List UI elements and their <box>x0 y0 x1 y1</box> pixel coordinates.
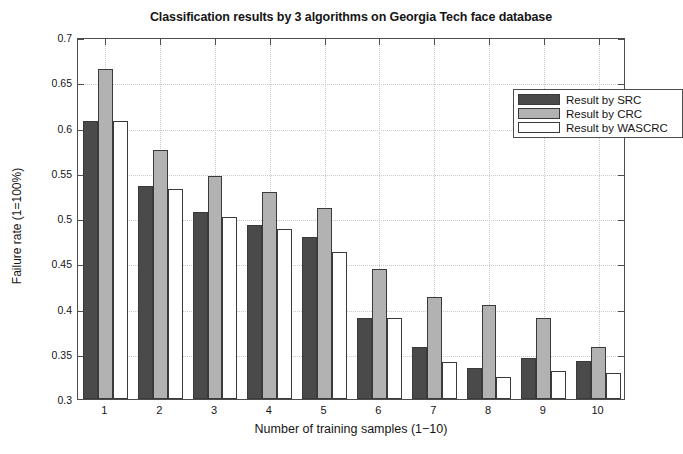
legend-swatch <box>518 122 560 133</box>
bar <box>606 373 621 399</box>
bar <box>496 377 511 399</box>
x-axis-tick <box>489 39 490 45</box>
y-axis-tick <box>78 39 84 40</box>
bar <box>277 229 292 399</box>
x-axis-tick-label: 7 <box>430 404 436 416</box>
x-axis-tick-label: 9 <box>540 404 546 416</box>
y-axis-tick <box>618 265 624 266</box>
y-axis-tick <box>618 84 624 85</box>
bar <box>521 358 536 399</box>
bar <box>536 318 551 399</box>
x-axis-tick <box>105 39 106 45</box>
x-axis-tick-label: 10 <box>591 404 603 416</box>
bar <box>372 269 387 399</box>
y-axis-tick-label: 0.55 <box>52 168 72 180</box>
bar <box>482 305 497 399</box>
y-axis-tick <box>618 39 624 40</box>
bar <box>332 252 347 400</box>
y-axis-tick-label: 0.5 <box>57 213 72 225</box>
legend-swatch <box>518 94 560 105</box>
y-axis-tick-label: 0.35 <box>52 349 72 361</box>
x-axis-tick <box>544 39 545 45</box>
bar <box>262 192 277 399</box>
x-axis-tick-labels: 12345678910 <box>77 404 625 420</box>
bar <box>387 318 402 399</box>
bar <box>113 121 128 399</box>
y-axis-tick-label: 0.7 <box>57 32 72 44</box>
x-axis-tick <box>379 39 380 45</box>
bar <box>83 121 98 399</box>
bar <box>467 368 482 399</box>
y-axis-tick-label: 0.45 <box>52 258 72 270</box>
x-axis-tick-label: 8 <box>485 404 491 416</box>
bar <box>168 189 183 399</box>
bar <box>302 237 317 399</box>
x-axis-tick-label: 1 <box>101 404 107 416</box>
x-axis-label: Number of training samples (1−10) <box>77 422 625 436</box>
x-axis-tick-label: 3 <box>211 404 217 416</box>
legend-label: Result by WASCRC <box>566 122 668 134</box>
bar <box>317 208 332 399</box>
plot-area: Result by SRCResult by CRCResult by WASC… <box>77 38 625 400</box>
y-axis-tick <box>618 175 624 176</box>
y-axis-label: Failure rate (1=100%) <box>10 136 24 316</box>
bar <box>153 150 168 399</box>
x-axis-tick-label: 4 <box>266 404 272 416</box>
x-axis-tick <box>325 39 326 45</box>
chart-title: Classification results by 3 algorithms o… <box>77 10 625 24</box>
bar <box>208 176 223 399</box>
bar <box>576 361 591 399</box>
legend-swatch <box>518 108 560 119</box>
y-axis-tick <box>618 311 624 312</box>
legend-item: Result by CRC <box>518 107 678 120</box>
legend-item: Result by SRC <box>518 93 678 106</box>
y-axis-tick-label: 0.3 <box>57 394 72 406</box>
x-axis-tick-label: 2 <box>156 404 162 416</box>
x-axis-tick <box>215 39 216 45</box>
y-axis-tick-labels: 0.30.350.40.450.50.550.60.650.7 <box>34 38 72 400</box>
x-axis-tick <box>270 39 271 45</box>
bar <box>138 186 153 399</box>
y-axis-tick <box>618 220 624 221</box>
bar <box>247 225 262 399</box>
legend-label: Result by SRC <box>566 94 641 106</box>
bar <box>442 362 457 399</box>
x-axis-tick <box>160 39 161 45</box>
y-axis-tick-label: 0.6 <box>57 123 72 135</box>
bar <box>222 217 237 399</box>
x-axis-tick-label: 5 <box>321 404 327 416</box>
chart-legend: Result by SRCResult by CRCResult by WASC… <box>513 89 683 138</box>
x-axis-tick <box>434 39 435 45</box>
bar <box>551 371 566 399</box>
bar <box>98 69 113 399</box>
bar <box>591 347 606 399</box>
y-axis-tick-label: 0.65 <box>52 77 72 89</box>
y-axis-tick <box>618 356 624 357</box>
bar <box>427 297 442 399</box>
x-axis-tick <box>599 39 600 45</box>
bar <box>193 212 208 399</box>
y-axis-tick-label: 0.4 <box>57 304 72 316</box>
legend-label: Result by CRC <box>566 108 642 120</box>
y-axis-tick <box>78 84 84 85</box>
bar <box>412 347 427 399</box>
bar <box>357 318 372 399</box>
x-axis-tick-label: 6 <box>375 404 381 416</box>
legend-item: Result by WASCRC <box>518 121 678 134</box>
